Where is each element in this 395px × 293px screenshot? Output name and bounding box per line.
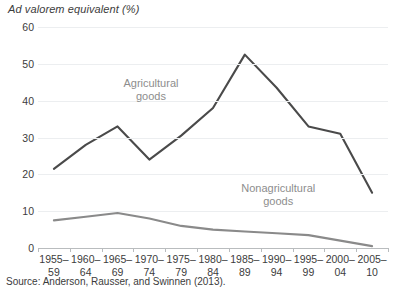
y-axis-tick-label: 60 xyxy=(8,21,34,33)
plot-area xyxy=(38,27,388,248)
x-axis-line xyxy=(38,248,388,249)
y-axis-tick-label: 10 xyxy=(8,205,34,217)
x-axis-tickmark xyxy=(293,248,294,252)
y-axis-tick-label: 0 xyxy=(8,242,34,254)
x-axis-tickmark xyxy=(165,248,166,252)
y-axis-tick-label: 30 xyxy=(8,132,34,144)
x-axis-tickmark xyxy=(70,248,71,252)
gridline xyxy=(38,174,388,175)
y-axis: 0102030405060 xyxy=(4,27,34,248)
gridline xyxy=(38,101,388,102)
chart-container: Ad valorem equivalent (%) 0102030405060 … xyxy=(0,0,395,293)
y-axis-tick-label: 40 xyxy=(8,95,34,107)
gridline xyxy=(38,211,388,212)
x-axis-tickmark xyxy=(102,248,103,252)
x-axis-tick-label: 1985–89 xyxy=(230,253,259,278)
x-axis-tickmark xyxy=(261,248,262,252)
x-axis-tick-label: 1965–69 xyxy=(103,253,132,278)
x-axis-tickmark xyxy=(324,248,325,252)
x-axis-tick-label: 1995–99 xyxy=(294,253,323,278)
x-axis-tick-label: 1955–59 xyxy=(39,253,68,278)
x-axis-tick-label: 1960–64 xyxy=(71,253,100,278)
y-axis-tick-label: 20 xyxy=(8,168,34,180)
series-label-nonagricultural-goods: Nonagriculturalgoods xyxy=(241,182,315,208)
line-nonagricultural-goods xyxy=(54,213,372,246)
line-agricultural-goods xyxy=(54,55,372,193)
source-note: Source: Anderson, Rausser, and Swinnen (… xyxy=(6,276,226,287)
gridline xyxy=(38,64,388,65)
gridline xyxy=(38,27,388,28)
x-axis-tick-label: 1990–94 xyxy=(262,253,291,278)
x-axis-tickmark xyxy=(388,248,389,252)
gridline xyxy=(38,138,388,139)
x-axis-tickmark xyxy=(38,248,39,252)
x-axis-tick-label: 1980–84 xyxy=(198,253,227,278)
x-axis-tick-label: 1970–74 xyxy=(135,253,164,278)
y-axis-tick-label: 50 xyxy=(8,58,34,70)
x-axis-tickmark xyxy=(229,248,230,252)
x-axis-tick-label: 1975–79 xyxy=(167,253,196,278)
x-axis-tick-label: 2000–04 xyxy=(326,253,355,278)
x-axis-tickmark xyxy=(197,248,198,252)
x-axis-tickmark xyxy=(133,248,134,252)
x-axis-tickmark xyxy=(356,248,357,252)
chart-axis-title: Ad valorem equivalent (%) xyxy=(8,3,140,15)
series-label-agricultural-goods: Agriculturalgoods xyxy=(123,77,178,103)
x-axis-tick-label: 2005–10 xyxy=(357,253,386,278)
